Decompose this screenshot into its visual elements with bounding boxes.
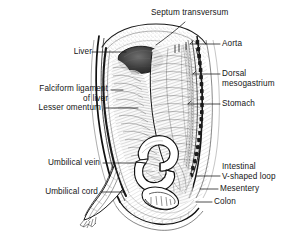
- label-intestinal: Intestinal: [222, 162, 256, 171]
- colon: [142, 187, 179, 210]
- label-liver: Liver: [40, 47, 92, 56]
- dorsal-mesogastrium-and-vertebral-column: [175, 36, 219, 198]
- lesser-omentum: [112, 60, 167, 197]
- label-aorta: Aorta: [222, 39, 242, 48]
- vertebral-column: [189, 36, 204, 198]
- label-dorsal: Dorsal: [222, 69, 246, 78]
- ventral-body-wall: [91, 36, 125, 206]
- label-falciform-ligament: Falciform ligament: [4, 84, 108, 93]
- v-shaped-loop-distal: [134, 162, 174, 192]
- dorsal-mesogastrium-sheet: [176, 44, 194, 196]
- label-umbilical-cord: Umbilical cord: [4, 187, 98, 196]
- aorta-vessel: [181, 40, 197, 194]
- abdominal-cavity-mass: [101, 32, 212, 227]
- caudal-body-wall: [116, 194, 203, 230]
- label-colon: Colon: [214, 197, 236, 206]
- liver-organ: [116, 46, 164, 176]
- leader-lines: [92, 22, 220, 202]
- anatomical-illustration: [0, 0, 297, 242]
- anatomy-figure: Septum transversum Liver Aorta Dorsal me…: [0, 0, 297, 242]
- septum-transversum-region: [102, 24, 209, 58]
- intestinal-loop-group: [134, 136, 192, 210]
- label-stomach: Stomach: [222, 99, 255, 108]
- falciform-ligament: [104, 48, 129, 196]
- label-lesser-omentum: Lesser omentum: [4, 103, 101, 112]
- label-v-shaped-loop: V-shaped loop: [222, 172, 276, 181]
- label-mesogastrium: mesogastrium: [222, 79, 275, 88]
- mesentery: [149, 158, 193, 204]
- cavity-base-tone: [101, 32, 212, 227]
- v-shaped-loop-proximal: [138, 136, 178, 171]
- leader-septum-transversum: [156, 22, 185, 45]
- label-falciform-of-liver: of liver: [4, 94, 108, 103]
- label-umbilical-vein: Umbilical vein: [4, 158, 100, 167]
- stomach-organ: [150, 44, 202, 193]
- label-mesentery: Mesentery: [220, 184, 259, 193]
- label-septum-transversum: Septum transversum: [151, 8, 228, 17]
